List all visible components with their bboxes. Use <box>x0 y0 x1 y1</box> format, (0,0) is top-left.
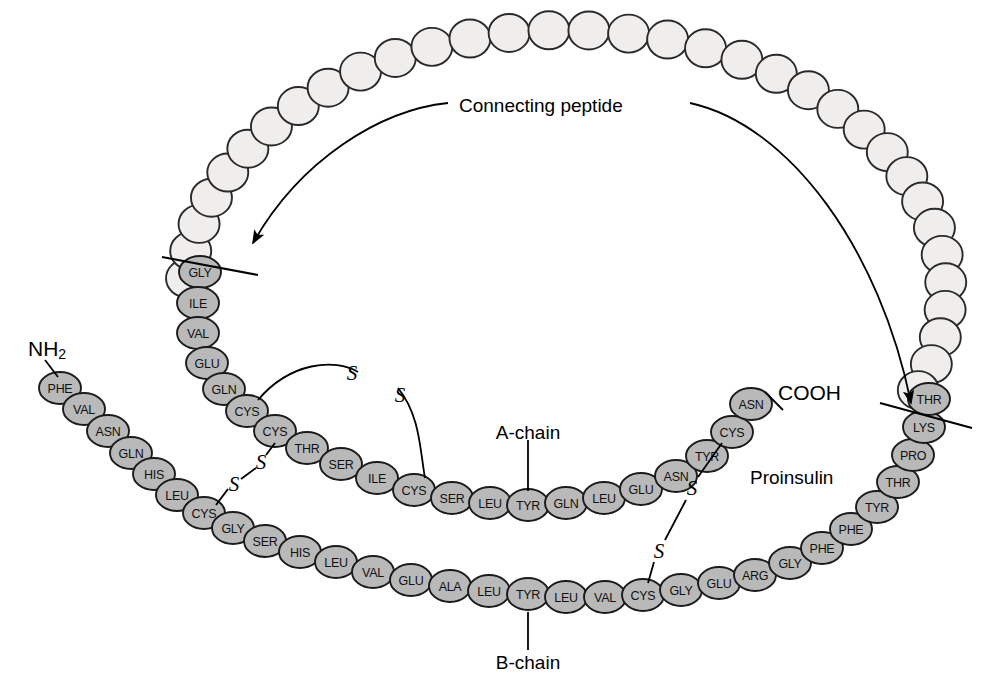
residue-label: LYS <box>913 421 935 435</box>
residue-label: PHE <box>810 542 835 556</box>
residue-b-15: LEU <box>468 575 510 607</box>
residue-label: SER <box>253 535 278 549</box>
connecting-peptide-residue-17 <box>608 15 649 53</box>
n-terminus-text: NH <box>28 337 58 360</box>
residue-label: VAL <box>73 403 95 417</box>
residue-label: TYR <box>516 588 540 602</box>
sulfur-atom-label: S <box>347 361 358 385</box>
residue-b-17: LEU <box>545 581 587 613</box>
residue-label: CYS <box>192 507 217 521</box>
residue-b-28: PRO <box>892 439 934 471</box>
residue-a-3: VAL <box>177 317 219 349</box>
residue-label: GLU <box>629 483 654 497</box>
residue-label: VAL <box>187 327 209 341</box>
residue-label: HIS <box>144 468 164 482</box>
residue-label: ILE <box>368 472 386 486</box>
residue-label: LEU <box>324 556 348 570</box>
residue-label: CYS <box>402 484 427 498</box>
connecting-peptide-residue-18 <box>647 21 688 59</box>
sulfur-atom-label: S <box>229 472 240 496</box>
sulfur-atom-label: S <box>395 383 406 407</box>
residue-label: GLN <box>554 497 579 511</box>
residue-label: GLU <box>707 577 732 591</box>
connecting-peptide-residue-13 <box>449 20 490 58</box>
sulfur-atom-label: S <box>256 450 267 474</box>
residue-b-16: TYR <box>507 578 549 610</box>
residue-label: SER <box>329 458 354 472</box>
sulfur-atom-label: S <box>654 539 665 563</box>
sulfur-atom-label: S <box>687 476 698 500</box>
residue-label: PHE <box>48 382 73 396</box>
residue-a-10: ILE <box>356 462 398 494</box>
residue-label: ALA <box>439 580 463 594</box>
residue-label: SER <box>440 492 465 506</box>
connecting-peptide-residue-19 <box>685 29 726 67</box>
residue-a-12: SER <box>431 482 473 514</box>
residue-label: ASN <box>664 470 689 484</box>
connecting-peptide-residue-15 <box>528 11 569 49</box>
residue-label: GLY <box>669 584 693 598</box>
residue-label: GLN <box>119 447 144 461</box>
residue-b-19: CYS <box>622 579 664 611</box>
residue-b-12: VAL <box>352 556 394 588</box>
residue-label: THR <box>295 442 320 456</box>
connecting-peptide-residue-14 <box>489 14 530 52</box>
residue-label: TYR <box>516 499 540 513</box>
a-chain-label: A-chain <box>496 422 560 443</box>
residue-label: THR <box>917 393 942 407</box>
residue-label: ILE <box>189 297 207 311</box>
residue-b-11: LEU <box>315 546 357 578</box>
residue-label: CYS <box>263 425 288 439</box>
connecting-peptide-residue-11 <box>375 39 416 77</box>
residue-a-15: GLN <box>545 487 587 519</box>
residue-label: GLN <box>212 383 237 397</box>
residue-b-18: VAL <box>584 581 626 613</box>
residue-label: LEU <box>477 585 501 599</box>
residue-label: GLY <box>221 522 245 536</box>
residue-label: GLU <box>195 357 220 371</box>
residue-label: HIS <box>290 546 310 560</box>
residue-b-14: ALA <box>429 570 471 602</box>
residue-label: TYR <box>865 501 889 515</box>
residue-label: ARG <box>742 569 768 583</box>
residue-label: LEU <box>592 492 616 506</box>
residue-a-14: TYR <box>507 489 549 521</box>
residue-b-20: GLY <box>660 574 702 606</box>
residue-label: LEU <box>478 497 502 511</box>
residue-label: ASN <box>96 425 121 439</box>
residue-label: CYS <box>235 405 260 419</box>
residue-b-30: THR <box>908 383 950 415</box>
residue-a-16: LEU <box>583 482 625 514</box>
residue-b-13: GLU <box>390 564 432 596</box>
residue-label: CYS <box>720 426 745 440</box>
residue-label: GLY <box>778 557 802 571</box>
residue-label: GLU <box>399 574 424 588</box>
residue-label: VAL <box>594 591 616 605</box>
residue-label: VAL <box>362 566 384 580</box>
residue-label: GLY <box>188 266 212 280</box>
connecting-peptide-residue-16 <box>568 11 609 49</box>
residue-label: LEU <box>165 489 189 503</box>
residue-a-2: ILE <box>177 287 219 319</box>
residue-label: CYS <box>631 589 656 603</box>
connecting-peptide-label: Connecting peptide <box>459 95 623 116</box>
residue-label: THR <box>886 476 911 490</box>
c-terminus-label: COOH <box>778 381 841 404</box>
connecting-peptide-residue-12 <box>411 28 452 66</box>
residue-label: LEU <box>554 591 578 605</box>
residue-label: PHE <box>839 523 864 537</box>
proinsulin-label: Proinsulin <box>750 467 833 488</box>
residue-a-20: CYS <box>711 416 753 448</box>
proinsulin-diagram: PHEVALASNGLNHISLEUCYSGLYSERHISLEUVALGLUA… <box>0 0 995 691</box>
residue-a-13: LEU <box>469 487 511 519</box>
n-terminus-subscript: 2 <box>58 346 66 362</box>
b-chain-label: B-chain <box>496 652 560 673</box>
residue-a-11: CYS <box>393 474 435 506</box>
residue-label: ASN <box>739 398 764 412</box>
residue-label: PRO <box>900 449 927 463</box>
